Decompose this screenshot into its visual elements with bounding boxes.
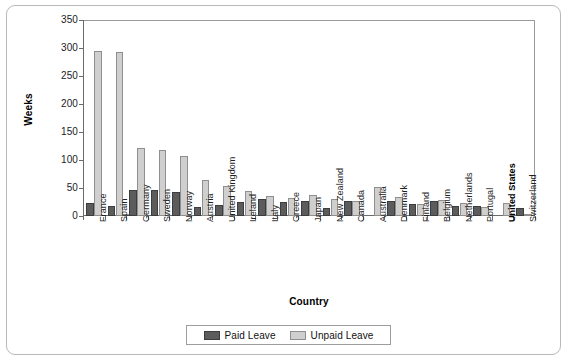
- y-axis-tick-labels: 050100150200250300350: [44, 0, 78, 364]
- y-axis-tick-label: 50: [48, 183, 78, 193]
- legend-item: Unpaid Leave: [290, 330, 374, 341]
- x-axis-tick-label: Sweden: [162, 189, 172, 222]
- x-axis-tick-label: Belgium: [442, 189, 452, 222]
- y-axis-tick-label: 250: [48, 71, 78, 81]
- x-axis-tick-label: Austria: [205, 193, 215, 222]
- x-axis-tick-label: Netherlands: [464, 172, 474, 222]
- x-axis-tick-label: Denmark: [399, 185, 409, 222]
- x-axis-tick-label: Switzerland: [528, 174, 538, 222]
- chart-legend: Paid LeaveUnpaid Leave: [186, 325, 391, 345]
- y-axis-tick-label: 100: [48, 155, 78, 165]
- x-axis-tick-mark: [83, 216, 84, 220]
- x-axis-tick-label: United States: [507, 163, 517, 222]
- y-axis-tick-label: 300: [48, 43, 78, 53]
- x-axis-tick-label: Australia: [378, 186, 388, 222]
- bar-paid-leave: [516, 208, 524, 216]
- y-axis-title: Weeks: [23, 75, 34, 145]
- y-axis-tick-label: 0: [48, 211, 78, 221]
- x-axis-tick-label: Ireland: [248, 194, 258, 222]
- legend-item: Paid Leave: [204, 330, 276, 341]
- y-axis-tick-label: 350: [48, 15, 78, 25]
- x-axis-tick-label: Italy: [270, 205, 280, 222]
- x-axis-title: Country: [83, 296, 535, 307]
- x-axis-tick-label: Portugal: [485, 188, 495, 222]
- x-axis-tick-label: Norway: [184, 191, 194, 222]
- y-axis-tick-label: 150: [48, 127, 78, 137]
- x-axis-tick-label: Finland: [421, 192, 431, 222]
- x-axis-tick-label: Spain: [119, 198, 129, 222]
- x-axis-tick-label: New Zealand: [335, 168, 345, 222]
- x-axis-tick-label: Greece: [291, 192, 301, 222]
- x-axis-tick-label: United Kingdom: [227, 157, 237, 222]
- x-axis-tick-label: Canada: [356, 190, 366, 222]
- chart-figure: 050100150200250300350 Weeks FranceSpainG…: [0, 0, 569, 364]
- y-axis-tick-label: 200: [48, 99, 78, 109]
- legend-swatch-unpaid-icon: [290, 331, 306, 340]
- x-axis-tick-label: Germany: [141, 184, 151, 222]
- legend-label: Unpaid Leave: [311, 330, 374, 341]
- legend-swatch-paid-icon: [204, 331, 220, 340]
- legend-label: Paid Leave: [225, 330, 276, 341]
- x-axis-tick-label: France: [98, 193, 108, 222]
- x-axis-tick-label: Japan: [313, 197, 323, 222]
